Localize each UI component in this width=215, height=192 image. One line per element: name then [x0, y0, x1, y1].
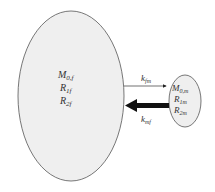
free-pool-ellipse: [18, 11, 124, 181]
label-kmf: kmf: [141, 114, 152, 125]
exchange-diagram: M0,f R1f R2f M0,m R1m R2m kfm kmf: [0, 0, 215, 192]
arrow-kmf: [125, 99, 169, 112]
label-kfm: kfm: [141, 73, 152, 84]
macro-pool-labels: M0,m R1m R2m: [171, 83, 189, 116]
